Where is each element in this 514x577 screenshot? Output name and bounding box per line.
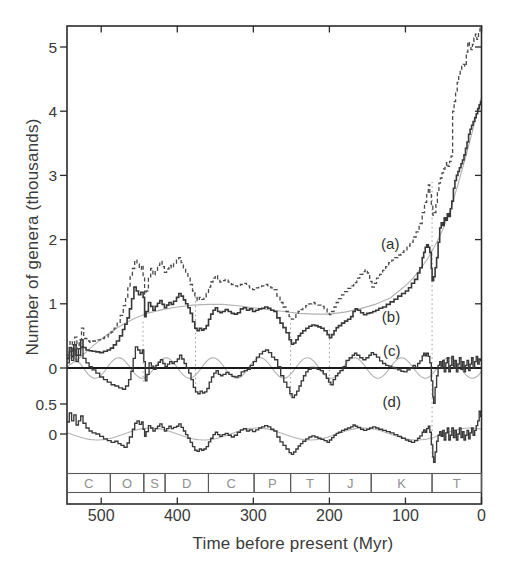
period-label: C xyxy=(84,476,93,491)
period-label: T xyxy=(453,476,461,491)
period-label: C xyxy=(227,476,236,491)
period-label: J xyxy=(347,476,354,491)
y-tick-label: 4 xyxy=(48,103,57,120)
y-offset-tick-label: 0.5 xyxy=(35,396,57,413)
series-label-d: (d) xyxy=(383,393,401,410)
x-tick-label: 0 xyxy=(477,507,486,524)
axis-ticks xyxy=(60,26,482,504)
tick-labels: 50040030020010005432100.50 xyxy=(35,39,486,525)
period-strip: COSDCPTJKT xyxy=(67,474,482,493)
period-label: T xyxy=(306,476,314,491)
y-tick-label: 5 xyxy=(48,39,57,56)
series-label-a: (a) xyxy=(381,235,399,252)
biodiversity-figure: 50040030020010005432100.50COSDCPTJKT(a)(… xyxy=(0,0,514,577)
period-label: D xyxy=(182,476,191,491)
period-label: O xyxy=(122,476,132,491)
y-tick-label: 1 xyxy=(48,295,57,312)
diversity-chart: 50040030020010005432100.50COSDCPTJKT(a)(… xyxy=(0,0,514,577)
series-d-curve xyxy=(67,411,481,462)
x-tick-label: 200 xyxy=(316,507,343,524)
y-tick-label: 2 xyxy=(48,231,57,248)
series-label-b: (b) xyxy=(382,308,400,325)
period-label: P xyxy=(268,476,277,491)
y-offset-tick-label: 0 xyxy=(48,426,57,443)
y-tick-label: 0 xyxy=(48,360,57,377)
period-label: S xyxy=(150,476,159,491)
cubic-trend-fit-line xyxy=(67,97,482,367)
x-tick-label: 300 xyxy=(240,507,267,524)
series-a-curve xyxy=(67,27,482,356)
x-tick-label: 100 xyxy=(392,507,419,524)
x-axis-title: Time before present (Myr) xyxy=(193,534,394,554)
x-tick-label: 400 xyxy=(164,507,191,524)
period-label: K xyxy=(397,476,406,491)
y-tick-label: 3 xyxy=(48,167,57,184)
series-label-c: (c) xyxy=(383,342,401,359)
y-axis-title: Number of genera (thousands) xyxy=(23,118,43,355)
x-tick-label: 500 xyxy=(88,507,115,524)
